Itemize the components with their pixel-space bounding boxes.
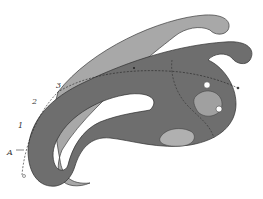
curve-endpoint (237, 87, 240, 90)
hole-marker (204, 82, 210, 88)
label-point-3: 3 (56, 81, 61, 90)
inner-round-light (194, 91, 222, 116)
small-circle-marker (23, 175, 26, 178)
label-point-2: 2 (31, 97, 37, 106)
dark-french-curve (28, 42, 252, 186)
hole-marker (216, 106, 222, 112)
label-point-1: 1 (18, 121, 23, 130)
curve-point (133, 67, 135, 69)
french-curves-illustration: A 1 2 3 (0, 0, 263, 199)
label-point-a: A (6, 148, 13, 157)
